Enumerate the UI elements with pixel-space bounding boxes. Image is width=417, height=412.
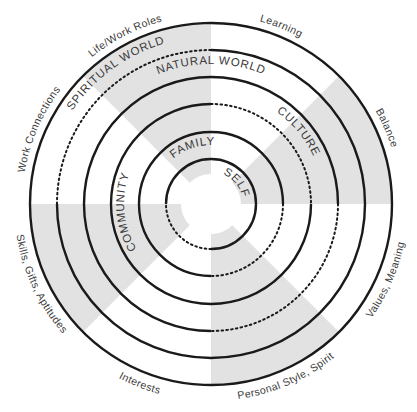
holistic-career-wheel-diagram: SELF FAMILY COMMUNITY CULTURE NATURAL WO… bbox=[0, 0, 417, 412]
label-interests: Interests bbox=[118, 369, 162, 396]
label-learning: Learning bbox=[259, 12, 305, 40]
label-work-connections: Work Connections bbox=[15, 83, 63, 173]
